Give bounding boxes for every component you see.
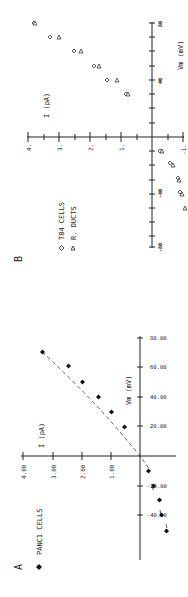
open-triangle-icon (71, 246, 75, 250)
b-legend-t84: T84 CELLS (58, 202, 66, 240)
a-legend-panc1: PANC1 CELLS (36, 509, 44, 555)
b-series-rducts (33, 21, 187, 210)
b-series-t84 (32, 21, 182, 194)
panel-a-label: A (13, 564, 24, 570)
b-i-tick-3: 3. (56, 144, 63, 151)
b-vm-axis-title: Vm (mV) (177, 40, 185, 70)
open-diamond-icon (59, 246, 64, 251)
b-legend-rducts: R. DUCTS (70, 206, 78, 240)
panel-b: 4. 3. 2. 1. -1. 80 40 -40 -80 Vm (mV) I … (13, 21, 187, 262)
b-i-tick-1: 1. (118, 144, 125, 151)
a-i-tick-4: 4.00 (20, 464, 27, 479)
a-vm-tick-40: 40.00 (150, 394, 167, 400)
a-i-tick-labels: 4.00 3.00 2.00 1.00 (20, 464, 115, 479)
a-vm-tick-80: 80.00 (150, 335, 167, 341)
a-fit-curve-tail (153, 484, 167, 528)
a-vm-axis-title: Vm (mV) (125, 375, 133, 405)
b-legend: T84 CELLS R. DUCTS (58, 202, 78, 250)
b-i-tick-2: 2. (87, 144, 94, 151)
b-i-tick-4: 4. (25, 144, 32, 151)
a-i-tick-2: 2.00 (79, 464, 86, 479)
b-vm-tick-neg40: -40 (157, 189, 163, 198)
b-i-axis-title: I (pA) (43, 93, 51, 118)
b-vm-tick-labels: 80 40 -40 -80 (157, 21, 163, 252)
panel-b-label: B (13, 256, 24, 262)
a-legend: PANC1 CELLS (36, 509, 44, 570)
a-fit-curve (42, 352, 150, 470)
b-vm-tick-neg80: -80 (157, 243, 163, 252)
a-vm-tick-labels: 80.00 60.00 40.00 20.00 -20.00 -40.00 (147, 335, 167, 518)
b-vm-tick-40: 40 (157, 78, 163, 84)
b-i-tick-neg1: -1. (180, 144, 187, 155)
a-vm-tick-neg20: -20.00 (147, 483, 167, 489)
a-vm-tick-20: 20.00 (150, 423, 167, 429)
a-i-tick-1: 1.00 (108, 464, 115, 479)
a-vm-tick-60: 60.00 (150, 364, 167, 370)
figure: 4. 3. 2. 1. -1. 80 40 -40 -80 Vm (mV) I … (0, 0, 188, 597)
b-vm-tick-80: 80 (157, 21, 163, 27)
filled-diamond-icon (36, 564, 42, 570)
a-i-tick-3: 3.00 (50, 464, 57, 479)
a-series-panc1 (40, 350, 169, 534)
a-i-axis-title: I (pA) (38, 423, 46, 448)
panel-a: 4.00 3.00 2.00 1.00 80.00 60.00 40.00 20… (13, 335, 176, 570)
